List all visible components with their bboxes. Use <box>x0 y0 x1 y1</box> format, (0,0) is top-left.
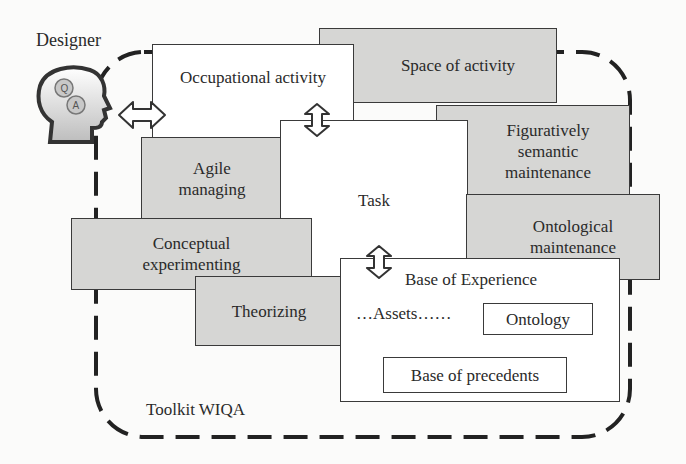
base-of-experience-title: Base of Experience <box>405 269 537 290</box>
double-arrow-horizontal-icon <box>117 100 167 130</box>
space-of-activity-box: Space of activity <box>319 28 557 103</box>
svg-text:A: A <box>73 100 80 111</box>
agile-managing-box: Agile managing <box>141 137 283 221</box>
head-with-gears-icon: Q A <box>32 62 112 152</box>
base-of-precedents-box: Base of precedents <box>383 357 567 393</box>
svg-text:Q: Q <box>61 83 69 94</box>
assets-label: …Assets…… <box>356 303 451 324</box>
theorizing-box: Theorizing <box>195 276 343 346</box>
double-arrow-vertical-icon <box>366 244 392 280</box>
ontology-box: Ontology <box>483 303 593 335</box>
designer-label: Designer <box>36 30 101 51</box>
double-arrow-vertical-icon <box>304 102 330 138</box>
toolkit-wiqa-label: Toolkit WIQA <box>146 400 245 420</box>
